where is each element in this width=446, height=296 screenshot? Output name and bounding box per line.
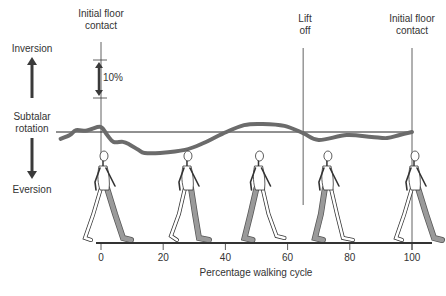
eversion-arrow-icon	[27, 138, 37, 179]
inversion-arrow-icon	[27, 57, 37, 98]
subtalar-rotation-curve	[61, 124, 412, 153]
x-tick-label: 0	[98, 252, 104, 263]
walking-figure-icon	[245, 151, 285, 240]
scale-bar-icon	[93, 60, 107, 98]
x-tick-label: 20	[158, 252, 170, 263]
x-tick-label: 40	[220, 252, 232, 263]
x-tick-label: 60	[282, 252, 294, 263]
walking-figure-icon	[396, 151, 442, 240]
gait-chart: 020406080100	[0, 0, 446, 296]
x-tick-label: 80	[344, 252, 356, 263]
walking-figure-icon	[171, 151, 209, 240]
walking-figure-icon	[315, 151, 353, 240]
x-tick-label: 100	[404, 252, 421, 263]
walking-figure-icon	[85, 151, 131, 240]
